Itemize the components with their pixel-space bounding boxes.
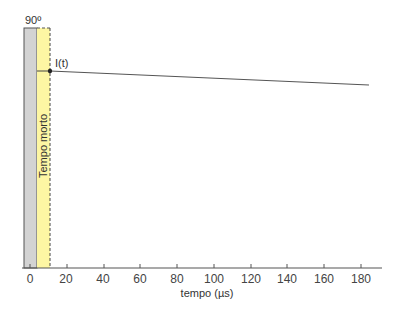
- x-tick-label: 180: [351, 272, 371, 286]
- dead-time-label: Tempo morto: [37, 114, 49, 178]
- x-tick-label: 140: [277, 272, 297, 286]
- x-tick-label: 60: [133, 272, 147, 286]
- x-tick-label: 40: [96, 272, 110, 286]
- signal-line: [50, 71, 369, 85]
- x-tick-label: 20: [59, 272, 73, 286]
- x-tick-labels: 0 20 40 60 80 100 120 140 160 180: [27, 272, 372, 286]
- signal-label: I(t): [55, 57, 68, 69]
- x-tick-label: 0: [27, 272, 34, 286]
- x-axis-title: tempo (µs): [181, 287, 234, 299]
- x-tick-label: 100: [204, 272, 224, 286]
- pulse-label: 90º: [25, 14, 41, 26]
- signal-start-dot: [48, 69, 52, 73]
- x-tick-label: 80: [170, 272, 184, 286]
- x-tick-label: 120: [241, 272, 261, 286]
- x-tick-label: 160: [314, 272, 334, 286]
- chart: 90º Tempo morto I(t) 0 20 40 60 80 100 1…: [0, 0, 399, 312]
- pulse-bar: [24, 28, 37, 268]
